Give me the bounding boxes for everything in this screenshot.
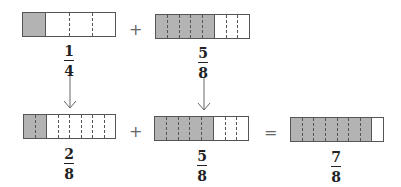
fraction-line bbox=[197, 165, 207, 166]
fraction-bar-five-eighths bbox=[155, 14, 250, 39]
bar-segment-shaded bbox=[167, 15, 179, 38]
bar-segment-shaded bbox=[325, 118, 337, 141]
bar-segment bbox=[69, 115, 81, 138]
bar-segment bbox=[226, 15, 238, 38]
bar-segment bbox=[46, 115, 58, 138]
bar-segment bbox=[236, 117, 248, 140]
fraction-label-5-8-top: 5 8 bbox=[193, 46, 213, 80]
bar-segment-shaded bbox=[156, 15, 167, 38]
bar-segment-shaded bbox=[155, 117, 166, 140]
bar-segment-shaded bbox=[190, 15, 202, 38]
bar-segment bbox=[58, 115, 70, 138]
bar-segment bbox=[92, 115, 104, 138]
down-arrow-icon bbox=[197, 78, 211, 112]
bar-segment-shaded bbox=[189, 117, 201, 140]
bar-segment-shaded bbox=[337, 118, 349, 141]
bar-segment-shaded bbox=[313, 118, 325, 141]
plus-operator: + bbox=[129, 20, 142, 39]
fraction-bar-seven-eighths bbox=[290, 117, 384, 142]
denominator: 8 bbox=[326, 170, 346, 184]
fraction-bar-two-eighths bbox=[23, 114, 116, 139]
bar-segment bbox=[69, 13, 92, 36]
bar-segment-shaded bbox=[202, 15, 214, 38]
bar-segment-shaded bbox=[179, 15, 191, 38]
down-arrow-icon bbox=[63, 76, 77, 110]
bar-segment bbox=[225, 117, 237, 140]
bar-segment bbox=[104, 115, 116, 138]
numerator: 1 bbox=[59, 44, 79, 58]
bar-segment-shaded bbox=[24, 115, 35, 138]
bar-segment-shaded bbox=[23, 13, 45, 36]
bar-segment-shaded bbox=[291, 118, 302, 141]
bar-segment bbox=[81, 115, 93, 138]
bar-segment bbox=[45, 13, 68, 36]
numerator: 2 bbox=[59, 147, 79, 161]
fraction-line bbox=[64, 163, 74, 164]
bar-segment-shaded bbox=[360, 118, 372, 141]
fraction-label-2-8: 2 8 bbox=[59, 147, 79, 181]
fraction-label-1-4: 1 4 bbox=[59, 44, 79, 78]
bar-segment-shaded bbox=[35, 115, 47, 138]
fraction-bar-five-eighths-bottom bbox=[154, 116, 249, 141]
denominator: 8 bbox=[59, 167, 79, 181]
bar-segment bbox=[237, 15, 249, 38]
numerator: 5 bbox=[192, 149, 212, 163]
fraction-line bbox=[331, 166, 341, 167]
bar-segment bbox=[92, 13, 115, 36]
fraction-label-7-8: 7 8 bbox=[326, 150, 346, 184]
equals-operator: = bbox=[264, 123, 277, 142]
plus-operator: + bbox=[129, 122, 142, 141]
bar-segment-shaded bbox=[348, 118, 360, 141]
bar-segment bbox=[371, 118, 383, 141]
denominator: 8 bbox=[192, 169, 212, 183]
bar-segment-shaded bbox=[166, 117, 178, 140]
bar-segment-shaded bbox=[302, 118, 314, 141]
fraction-bar-one-fourth bbox=[22, 12, 116, 37]
bar-segment-shaded bbox=[178, 117, 190, 140]
bar-segment bbox=[214, 15, 226, 38]
bar-segment bbox=[213, 117, 225, 140]
numerator: 7 bbox=[326, 150, 346, 164]
fraction-line bbox=[198, 62, 208, 63]
numerator: 5 bbox=[193, 46, 213, 60]
fraction-label-5-8-bottom: 5 8 bbox=[192, 149, 212, 183]
fraction-line bbox=[64, 60, 74, 61]
bar-segment-shaded bbox=[201, 117, 213, 140]
